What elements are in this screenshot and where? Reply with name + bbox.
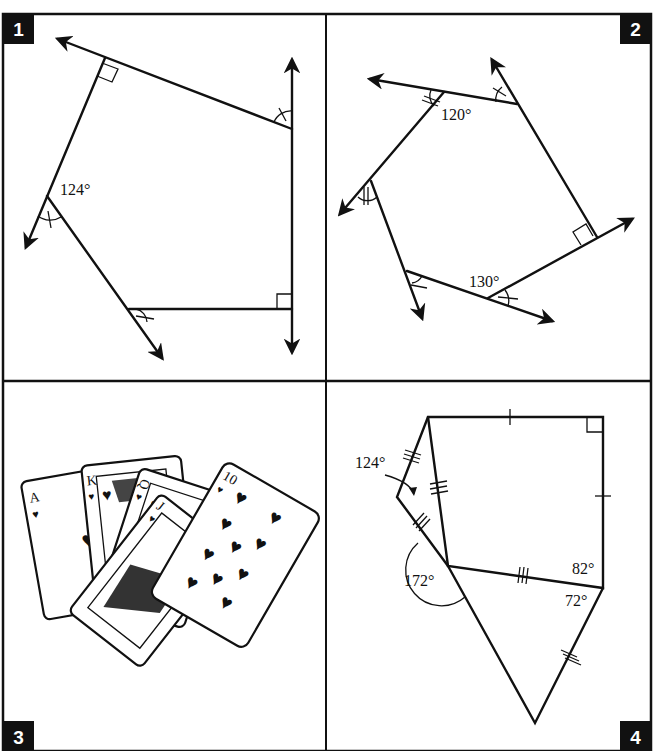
svg-text:♥: ♥ <box>88 491 95 503</box>
angle-label-72: 72° <box>565 592 587 609</box>
panel-badge-2: 2 <box>620 14 651 44</box>
angle-label-172: 172° <box>404 572 434 589</box>
panel-2-figure: 120° 130° <box>340 60 632 321</box>
svg-text:4: 4 <box>630 727 641 748</box>
panel-3-cards: A ♥ ♥ K ♥ ♥ Q ♥ ♥ J ♥ <box>21 455 322 668</box>
svg-text:3: 3 <box>13 727 24 748</box>
worksheet-canvas: 1 2 3 4 124° <box>0 0 655 751</box>
angle-arc-mark <box>136 309 147 322</box>
svg-text:1: 1 <box>13 19 24 40</box>
right-angle-mark <box>277 294 292 309</box>
angle-label-124: 124° <box>60 181 90 198</box>
angle-arc-mark <box>412 276 422 283</box>
panel-badge-3: 3 <box>3 721 34 751</box>
svg-text:K: K <box>86 472 98 488</box>
panel-grid <box>3 14 651 751</box>
worksheet: 1 2 3 4 124° <box>0 0 655 751</box>
svg-text:2: 2 <box>630 19 641 40</box>
panel-badge-4: 4 <box>620 721 651 751</box>
panel-1-figure: 124° <box>26 39 292 358</box>
angle-label-82: 82° <box>572 560 594 577</box>
panel-badge-1: 1 <box>3 14 34 44</box>
angle-label-130: 130° <box>469 273 499 290</box>
angle-label-120: 120° <box>441 106 471 123</box>
angle-label-124: 124° <box>355 454 385 471</box>
panel-4-figure: 124° 172° 82° 72° <box>355 409 611 723</box>
right-angle-mark <box>587 417 603 432</box>
svg-text:♥: ♥ <box>101 486 112 504</box>
